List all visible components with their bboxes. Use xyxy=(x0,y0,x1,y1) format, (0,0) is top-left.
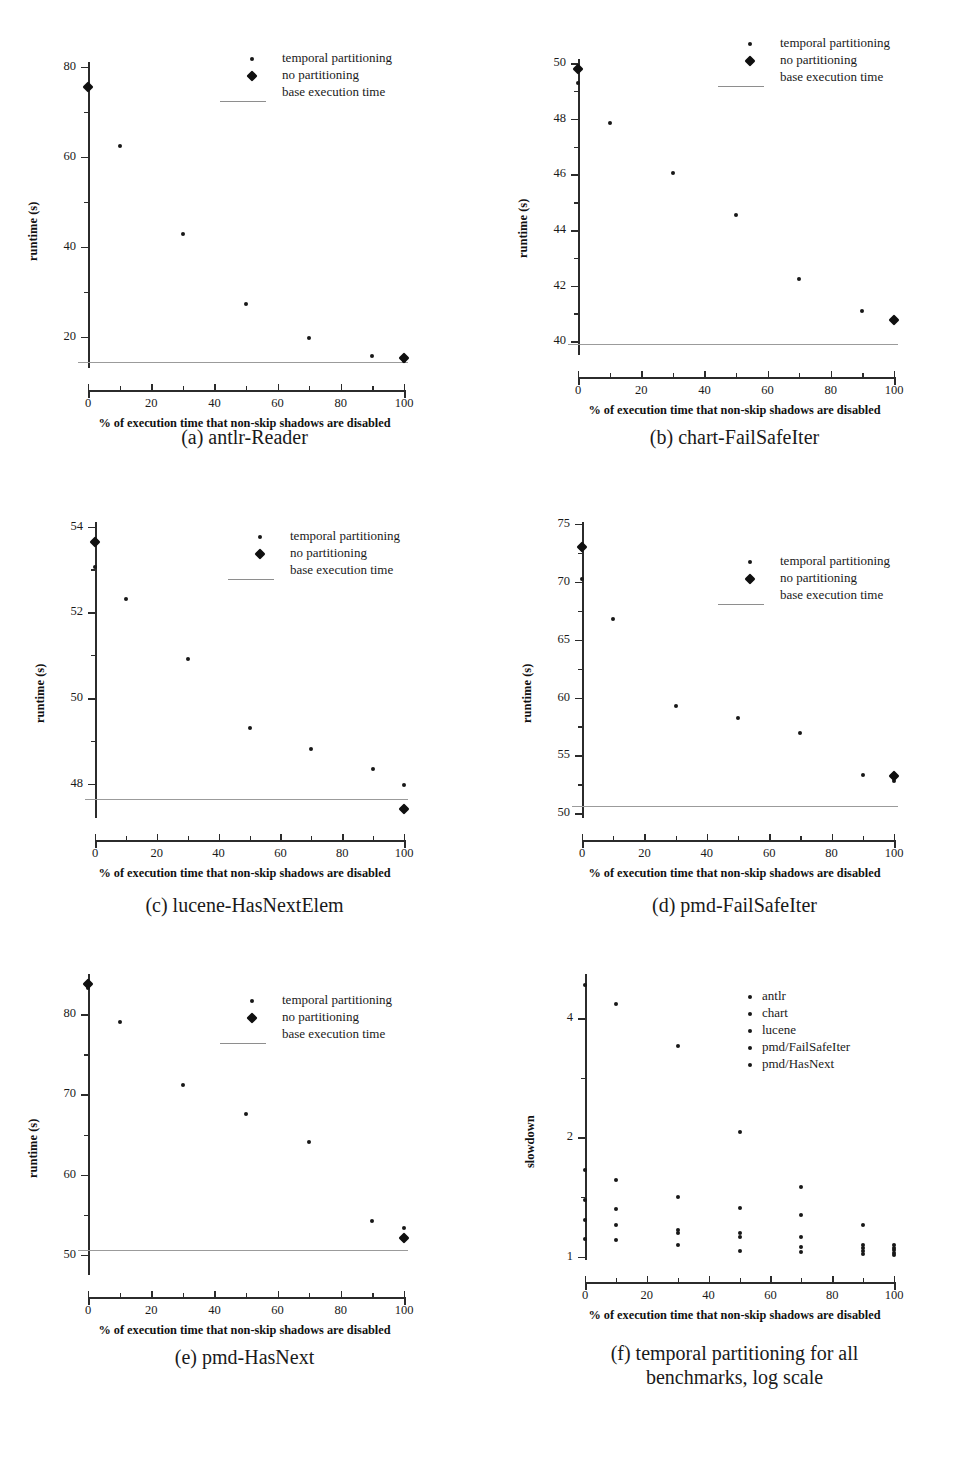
data-point-e-temporal-partitioning-5 xyxy=(370,1219,374,1223)
y-tick-label-c-1: 50 xyxy=(45,690,83,705)
data-point-b-temporal-partitioning-4 xyxy=(797,277,801,281)
x-minor-tick-e-1 xyxy=(183,1293,184,1298)
legend-label-c-2: base execution time xyxy=(290,562,393,578)
y-tick-label-d-4: 70 xyxy=(532,574,570,589)
x-tick-c-0 xyxy=(95,834,96,841)
x-minor-tick-c-2 xyxy=(250,836,251,841)
y-tick-a-2 xyxy=(81,157,89,159)
x-tick-e-4 xyxy=(341,1291,342,1298)
x-minor-tick-b-0 xyxy=(610,373,611,378)
y-tick-label-f-0: 1 xyxy=(535,1249,573,1264)
data-point-d-temporal-partitioning-2 xyxy=(674,704,678,708)
panel-c: 48505254runtime (s)020406080100% of exec… xyxy=(0,478,489,954)
y-tick-a-1 xyxy=(81,247,89,249)
x-minor-tick-f-3 xyxy=(801,1278,802,1283)
x-minor-tick-f-1 xyxy=(678,1278,679,1283)
x-tick-label-c-3: 60 xyxy=(260,846,300,861)
data-point-a-temporal-partitioning-5 xyxy=(370,354,374,358)
base-execution-time-line-c xyxy=(85,799,408,800)
data-point-f-pmd-FailSafeIter-0 xyxy=(583,1198,587,1202)
x-minor-tick-f-0 xyxy=(616,1278,617,1283)
x-tick-a-0 xyxy=(88,384,89,391)
data-point-f-lucene-6 xyxy=(892,1253,896,1257)
data-point-f-chart-4 xyxy=(799,1245,803,1249)
y-tick-c-3 xyxy=(88,527,96,529)
x-tick-d-0 xyxy=(582,834,583,841)
data-point-f-chart-1 xyxy=(614,1223,618,1227)
base-execution-time-line-e xyxy=(78,1250,408,1251)
data-point-f-lucene-3 xyxy=(738,1249,742,1253)
x-minor-tick-f-2 xyxy=(740,1278,741,1283)
legend-dot-swatch-f-0 xyxy=(748,995,752,999)
x-tick-c-5 xyxy=(404,834,405,841)
y-tick-label-b-2: 44 xyxy=(528,222,566,237)
y-axis-line-a xyxy=(88,62,90,368)
legend-diamond-swatch-d xyxy=(744,573,755,584)
data-point-f-pmd-HasNext-1 xyxy=(614,1178,618,1182)
x-tick-a-5 xyxy=(404,384,405,391)
x-tick-label-a-0: 0 xyxy=(68,396,108,411)
y-minor-tick-e-2 xyxy=(84,1054,89,1055)
panel-caption-line-e-0: (e) pmd-HasNext xyxy=(0,1346,489,1370)
data-point-a-no-partitioning-0 xyxy=(82,81,93,92)
panel-caption-line-b-0: (b) chart-FailSafeIter xyxy=(490,426,979,450)
y-tick-label-e-3: 80 xyxy=(38,1006,76,1021)
y-tick-label-d-5: 75 xyxy=(532,516,570,531)
x-tick-label-a-1: 20 xyxy=(131,396,171,411)
plot-area-d: 505560657075runtime (s)020406080100% of … xyxy=(490,478,979,878)
data-point-e-temporal-partitioning-2 xyxy=(181,1083,185,1087)
x-minor-tick-b-3 xyxy=(799,373,800,378)
data-point-f-chart-0 xyxy=(583,1218,587,1222)
data-point-c-temporal-partitioning-2 xyxy=(186,657,190,661)
data-point-f-pmd-FailSafeIter-1 xyxy=(614,1207,618,1211)
data-point-d-temporal-partitioning-1 xyxy=(611,617,615,621)
x-tick-label-c-2: 40 xyxy=(199,846,239,861)
data-point-b-temporal-partitioning-1 xyxy=(608,121,612,125)
legend-label-a-0: temporal partitioning xyxy=(282,50,392,66)
legend-dot-swatch-f-3 xyxy=(748,1046,752,1050)
data-point-f-pmd-FailSafeIter-2 xyxy=(676,1228,680,1232)
x-tick-e-3 xyxy=(278,1291,279,1298)
x-tick-label-c-0: 0 xyxy=(75,846,115,861)
y-tick-label-e-0: 50 xyxy=(38,1247,76,1262)
legend-dot-swatch-f-2 xyxy=(748,1029,752,1033)
y-tick-label-d-1: 55 xyxy=(532,747,570,762)
x-tick-f-1 xyxy=(647,1276,648,1283)
x-tick-c-3 xyxy=(280,834,281,841)
y-tick-label-b-0: 40 xyxy=(528,333,566,348)
y-minor-tick-a-0 xyxy=(84,292,89,293)
x-tick-label-f-3: 60 xyxy=(750,1288,790,1303)
data-point-f-pmd-FailSafeIter-4 xyxy=(799,1235,803,1239)
y-tick-label-d-0: 50 xyxy=(532,805,570,820)
y-minor-tick-d-3 xyxy=(578,611,583,612)
data-point-d-no-partitioning-1 xyxy=(888,771,899,782)
legend-baseline-swatch-b xyxy=(718,86,764,87)
y-tick-d-3 xyxy=(575,640,583,642)
y-axis-label-d: runtime (s) xyxy=(520,664,535,723)
legend-diamond-swatch-a xyxy=(246,70,257,81)
data-point-f-lucene-0 xyxy=(583,1237,587,1241)
y-minor-tick-a-1 xyxy=(84,202,89,203)
legend-label-e-0: temporal partitioning xyxy=(282,992,392,1008)
x-tick-b-3 xyxy=(768,371,769,378)
y-tick-label-a-2: 60 xyxy=(38,149,76,164)
y-minor-tick-e-0 xyxy=(84,1215,89,1216)
y-tick-label-e-2: 70 xyxy=(38,1086,76,1101)
x-axis-label-f: % of execution time that non-skip shadow… xyxy=(490,1308,979,1323)
x-tick-label-c-1: 20 xyxy=(137,846,177,861)
legend-label-f-2: lucene xyxy=(762,1022,796,1038)
panel-caption-c: (c) lucene-HasNextElem xyxy=(0,894,489,918)
x-minor-tick-c-3 xyxy=(311,836,312,841)
legend-baseline-swatch-e xyxy=(220,1043,266,1044)
data-point-b-temporal-partitioning-5 xyxy=(860,309,864,313)
y-tick-label-c-0: 48 xyxy=(45,776,83,791)
x-tick-label-d-1: 20 xyxy=(624,846,664,861)
y-tick-c-0 xyxy=(88,784,96,786)
legend-label-c-0: temporal partitioning xyxy=(290,528,400,544)
x-axis-label-b: % of execution time that non-skip shadow… xyxy=(490,403,979,418)
x-tick-label-e-2: 40 xyxy=(194,1303,234,1318)
legend-dot-swatch-f-1 xyxy=(748,1012,752,1016)
x-tick-a-3 xyxy=(278,384,279,391)
data-point-c-temporal-partitioning-6 xyxy=(402,783,406,787)
data-point-e-temporal-partitioning-1 xyxy=(118,1020,122,1024)
